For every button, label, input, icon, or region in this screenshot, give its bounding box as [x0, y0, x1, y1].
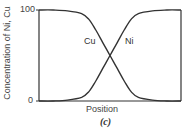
series-line-ni — [39, 10, 181, 101]
y-tick-label-0: 0 — [28, 95, 33, 105]
y-axis-label: Concentration of Ni, Cu — [2, 3, 14, 103]
y-tick-label-100: 100 — [20, 4, 35, 14]
series-curves — [39, 10, 181, 101]
series-label-ni: Ni — [125, 36, 134, 46]
series-label-cu: Cu — [84, 36, 96, 46]
x-axis-label: Position — [86, 104, 118, 114]
figure-caption: (c) — [100, 116, 111, 127]
interdiffusion-chart: Concentration of Ni, Cu 100 0 Cu Ni Posi… — [0, 0, 183, 134]
